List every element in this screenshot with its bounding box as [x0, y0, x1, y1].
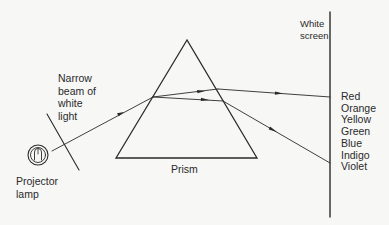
refracted-ray-violet	[153, 97, 223, 101]
spectrum-color-blue: Blue	[341, 138, 376, 150]
arrow-icon	[275, 92, 283, 95]
spectrum-color-red: Red	[341, 91, 376, 103]
refracted-ray-red	[153, 89, 218, 97]
spectrum-color-violet: Violet	[341, 161, 376, 173]
projector-lamp-label: Projector lamp	[16, 175, 58, 200]
beam-label: Narrow beam of white light	[58, 72, 96, 122]
slit	[47, 114, 79, 170]
arrow-icon	[269, 127, 277, 132]
spectrum-list: Red Orange Yellow Green Blue Indigo Viol…	[341, 91, 376, 173]
emergent-ray-violet	[223, 101, 330, 163]
prism-label: Prism	[171, 163, 198, 176]
projector-lamp-icon	[28, 145, 48, 165]
white-screen-label: White screen	[300, 18, 329, 41]
emergent-ray-red	[218, 89, 330, 97]
